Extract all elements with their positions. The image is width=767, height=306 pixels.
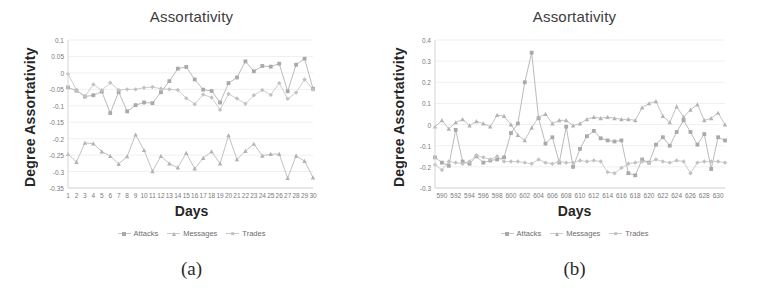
- data-point-marker: [134, 103, 138, 107]
- data-point-marker: [543, 160, 547, 164]
- data-point-marker: [564, 160, 568, 164]
- x-tick-label: 4: [92, 192, 96, 199]
- data-point-marker: [502, 155, 506, 159]
- y-tick-label: -0.1: [405, 142, 431, 149]
- data-point-marker: [285, 176, 289, 180]
- data-point-marker: [592, 158, 596, 162]
- x-tick-label: 630: [713, 192, 724, 199]
- y-axis-label-a: Degree Assortativity: [22, 42, 38, 192]
- y-tick-label: 0.2: [405, 79, 431, 86]
- x-tick-label: 16: [191, 192, 198, 199]
- x-tick-label: 25: [267, 192, 274, 199]
- x-tick-label: 18: [208, 192, 215, 199]
- x-tick-label: 22: [242, 192, 249, 199]
- data-point-marker: [654, 157, 658, 161]
- data-point-marker: [252, 142, 256, 146]
- legend-item-attacks[interactable]: Attacks: [501, 229, 542, 238]
- data-point-marker: [613, 140, 617, 144]
- x-tick-label: 628: [699, 192, 710, 199]
- series-line: [435, 101, 725, 140]
- data-point-marker: [626, 171, 630, 175]
- data-point-marker: [530, 51, 534, 55]
- data-point-marker: [184, 65, 188, 69]
- series-attacks: [433, 51, 727, 177]
- legend-label: Messages: [566, 229, 600, 238]
- data-point-marker: [716, 135, 720, 139]
- data-point-marker: [150, 85, 154, 89]
- data-point-marker: [460, 117, 464, 121]
- data-point-marker: [159, 154, 163, 158]
- legend-a: AttacksMessagesTrades: [0, 229, 383, 238]
- data-point-marker: [529, 161, 533, 165]
- data-point-marker: [702, 132, 706, 136]
- data-point-marker: [142, 101, 146, 105]
- y-tick-label: 0.3: [405, 58, 431, 65]
- data-point-marker: [125, 109, 129, 113]
- data-point-marker: [605, 170, 609, 174]
- x-tick-label: 626: [685, 192, 696, 199]
- x-tick-label: 622: [657, 192, 668, 199]
- data-point-marker: [606, 139, 610, 143]
- data-point-marker: [695, 143, 699, 147]
- legend-item-messages[interactable]: Messages: [550, 229, 600, 238]
- data-point-marker: [723, 160, 727, 164]
- x-tick-label: 20: [225, 192, 232, 199]
- chart-title-a: Assortativity: [0, 8, 383, 25]
- data-point-marker: [633, 160, 637, 164]
- x-tick-label: 3: [83, 192, 87, 199]
- data-point-marker: [184, 151, 188, 155]
- data-point-marker: [167, 87, 171, 91]
- data-point-marker: [481, 161, 485, 165]
- x-tick-label: 606: [547, 192, 558, 199]
- x-tick-label: 600: [506, 192, 517, 199]
- data-point-marker: [235, 96, 239, 100]
- data-point-marker: [226, 92, 230, 96]
- data-point-marker: [210, 89, 214, 93]
- data-point-marker: [302, 159, 306, 163]
- x-tick-label: 6: [108, 192, 112, 199]
- x-tick-label: 598: [492, 192, 503, 199]
- legend-marker-diamond-icon: [226, 233, 239, 234]
- data-point-marker: [674, 158, 678, 162]
- data-point-marker: [599, 159, 603, 163]
- legend-item-messages[interactable]: Messages: [167, 229, 217, 238]
- series-line: [68, 59, 313, 113]
- legend-item-trades[interactable]: Trades: [609, 229, 648, 238]
- x-tick-label: 614: [602, 192, 613, 199]
- x-tick-label: 616: [616, 192, 627, 199]
- data-point-marker: [133, 87, 137, 91]
- chart-panel-a: Assortativity Degree Assortativity 0.10.…: [0, 0, 383, 306]
- data-point-marker: [640, 105, 644, 109]
- x-tick-label: 23: [250, 192, 257, 199]
- assortativity-figure: Assortativity Degree Assortativity 0.10.…: [0, 0, 767, 306]
- data-point-marker: [133, 132, 137, 136]
- y-tick-label: -0.1: [38, 102, 64, 109]
- data-point-marker: [661, 135, 665, 139]
- legend-label: Attacks: [134, 229, 159, 238]
- data-point-marker: [661, 159, 665, 163]
- data-point-marker: [543, 112, 547, 116]
- data-point-marker: [689, 130, 693, 134]
- series-line: [68, 74, 313, 110]
- data-point-marker: [668, 144, 672, 148]
- data-point-marker: [201, 88, 205, 92]
- x-tick-label: 592: [450, 192, 461, 199]
- data-point-marker: [159, 90, 163, 94]
- x-tick-label: 602: [519, 192, 530, 199]
- data-point-marker: [303, 57, 307, 61]
- data-point-marker: [294, 63, 298, 67]
- legend-marker-triangle-icon: [550, 233, 563, 234]
- legend-item-trades[interactable]: Trades: [226, 229, 265, 238]
- data-point-marker: [311, 175, 315, 179]
- x-tick-label: 604: [533, 192, 544, 199]
- data-point-marker: [277, 62, 281, 66]
- y-tick-label: 0.4: [405, 37, 431, 44]
- data-point-marker: [599, 136, 603, 140]
- data-point-marker: [108, 111, 112, 115]
- plot-area-a: [68, 40, 313, 188]
- data-point-marker: [218, 101, 222, 105]
- legend-item-attacks[interactable]: Attacks: [118, 229, 159, 238]
- x-tick-label: 612: [588, 192, 599, 199]
- data-point-marker: [509, 159, 513, 163]
- data-point-marker: [716, 111, 720, 115]
